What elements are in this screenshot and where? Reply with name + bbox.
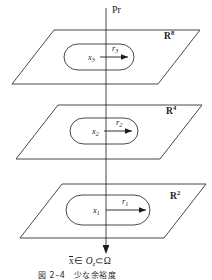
plane-middle-space-symbol: R	[166, 106, 173, 116]
plane-top-point-label: x3	[88, 53, 95, 62]
plane-bottom-point-index: 1	[97, 210, 100, 216]
plane-middle-radius-arrow-head	[125, 128, 132, 134]
plane-middle-point-index: 2	[96, 131, 99, 137]
plane-middle-space-exponent: 4	[173, 104, 176, 111]
membership-set: O	[86, 256, 93, 266]
plane-bottom-radius-arrow-head	[139, 207, 146, 213]
plane-top-radius-index: 3	[115, 48, 118, 54]
plane-middle-radius-index: 2	[119, 122, 122, 128]
membership-expression: x∈ Oz⊂Ω	[69, 257, 111, 267]
plane-top-radius-label: r3	[112, 44, 118, 53]
projection-operator-label: Pr	[112, 5, 121, 15]
membership-in-symbol: ∈	[74, 256, 83, 266]
plane-bottom-space-label: R2	[170, 190, 180, 202]
projection-arrow-head	[103, 245, 110, 254]
plane-bottom-radius-label: r1	[122, 197, 128, 206]
membership-variable: x	[69, 257, 74, 267]
plane-middle-radius-label: r2	[116, 118, 122, 127]
plane-middle-point-label: x2	[92, 127, 99, 136]
plane-top-space-label: R8	[164, 30, 174, 42]
plane-top-point-index: 3	[92, 57, 95, 63]
plane-bottom-space-exponent: 2	[177, 189, 180, 196]
figure-caption: 図 2–4 少な余裕度	[38, 272, 116, 280]
plane-bottom-radius-index: 1	[125, 201, 128, 207]
plane-middle-space-label: R4	[166, 105, 176, 117]
membership-domain: Ω	[104, 256, 111, 266]
plane-top-space-exponent: 8	[171, 29, 174, 36]
figure-canvas	[0, 0, 212, 280]
plane-bottom-space-symbol: R	[170, 191, 177, 201]
plane-top-radius-arrow-head	[121, 54, 128, 60]
plane-bottom-point-label: x1	[93, 206, 100, 215]
plane-top-space-symbol: R	[164, 31, 171, 41]
membership-subset-symbol: ⊂	[95, 256, 103, 266]
